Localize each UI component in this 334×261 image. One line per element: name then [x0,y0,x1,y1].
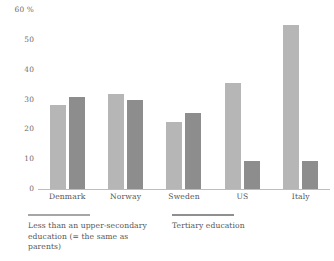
bar [283,25,299,189]
plot-area [38,10,330,189]
x-tick-label: Italy [292,192,310,202]
chart-legend: Less than an upper-secondary education (… [28,214,328,258]
y-tick-label: 0 [29,185,34,192]
legend-item-tertiary-education: Tertiary education [172,214,287,232]
bar-chart: 0102030405060 % DenmarkNorwaySwedenUSIta… [0,0,334,261]
x-axis-tick-labels: DenmarkNorwaySwedenUSItaly [38,192,330,206]
bar [302,161,318,189]
x-tick-label: US [236,192,248,202]
bar [166,122,182,189]
y-tick-label: 20 [24,126,34,133]
legend-swatch-less-than-upper-secondary [28,214,90,216]
bar [69,97,85,189]
x-tick-label: Denmark [49,192,85,202]
legend-item-less-than-upper-secondary: Less than an upper-secondary education (… [28,214,163,253]
y-axis: 0102030405060 % [0,10,34,189]
bar [108,94,124,189]
y-tick-label: 30 [24,96,34,103]
y-tick-label: 60 % [15,6,34,13]
x-tick-label: Sweden [168,192,199,202]
bar [185,113,201,189]
bar-group [155,10,213,189]
bar [127,100,143,190]
legend-label-tertiary-education: Tertiary education [172,221,287,231]
legend-swatch-tertiary-education [172,214,234,216]
legend-label-less-than-upper-secondary: Less than an upper-secondary education (… [28,221,163,252]
bar [244,161,260,189]
bar-group [213,10,271,189]
y-tick-label: 50 [24,36,34,43]
y-tick-label: 10 [24,155,34,162]
bar-group [96,10,154,189]
bar [50,105,66,189]
bar-group [38,10,96,189]
bar-group [272,10,330,189]
x-tick-label: Norway [110,192,141,202]
bar [225,83,241,189]
y-tick-label: 40 [24,66,34,73]
